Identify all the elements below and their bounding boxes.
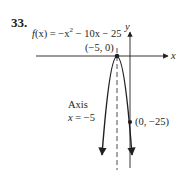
vertex-label: (−5, 0) <box>85 43 114 54</box>
axis-note-title: Axis <box>68 100 88 111</box>
x-axis-label: x <box>171 51 176 62</box>
axis-note-equation: x = −5 <box>68 113 95 124</box>
vertex-point <box>115 54 120 59</box>
y-axis-label: y <box>125 22 130 33</box>
problem-number: 33. <box>11 16 27 29</box>
y-intercept-label: (0, −25) <box>135 117 169 128</box>
figure: 33. f(x) = −x2 − 10x − 25 y x (−5, 0) (0… <box>0 0 181 173</box>
y-intercept-point <box>128 120 132 124</box>
function-label: f(x) = −x2 − 10x − 25 <box>32 27 122 39</box>
